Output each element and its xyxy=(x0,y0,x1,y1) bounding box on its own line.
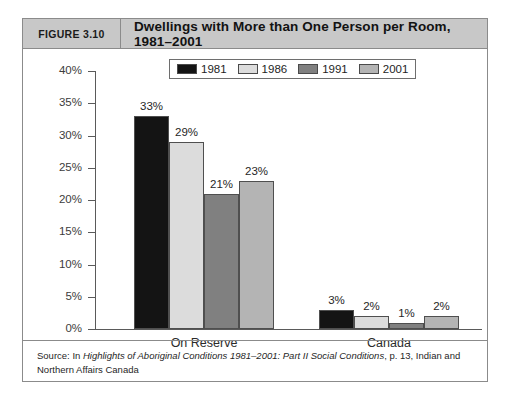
legend-item-2001[interactable]: 2001 xyxy=(359,63,409,75)
y-axis-tick-mark xyxy=(88,232,96,233)
source-prefix: Source: In xyxy=(37,350,83,361)
chart-legend: 1981198619912001 xyxy=(169,59,416,79)
y-axis-tick-label: 5% xyxy=(65,290,82,302)
legend-item-1986[interactable]: 1986 xyxy=(238,63,288,75)
y-axis-tick: 5% xyxy=(88,297,96,298)
legend-swatch-icon xyxy=(238,64,258,74)
y-axis-tick-label: 0% xyxy=(65,322,82,334)
y-axis-tick-mark xyxy=(88,71,96,72)
x-axis-line xyxy=(95,329,482,330)
source-note: Source: In Highlights of Aboriginal Cond… xyxy=(23,340,487,381)
y-axis-tick: 30% xyxy=(88,136,96,137)
bar-value-label: 33% xyxy=(132,100,172,112)
legend-item-1981[interactable]: 1981 xyxy=(177,63,227,75)
legend-label: 1991 xyxy=(322,63,348,75)
y-axis-tick: 20% xyxy=(88,200,96,201)
y-axis-tick-mark xyxy=(88,265,96,266)
y-axis-tick: 0% xyxy=(88,329,96,330)
legend-swatch-icon xyxy=(298,64,318,74)
bar-value-label: 2% xyxy=(352,300,392,312)
bar-1991-canada xyxy=(389,323,424,329)
source-publication-title: Highlights of Aboriginal Conditions 1981… xyxy=(83,350,384,361)
bar-1986-canada xyxy=(354,316,389,329)
legend-item-1991[interactable]: 1991 xyxy=(298,63,348,75)
y-axis-tick-mark xyxy=(88,297,96,298)
y-axis-tick-mark xyxy=(88,329,96,330)
y-axis-tick-label: 30% xyxy=(59,129,82,141)
y-axis-tick-mark xyxy=(88,168,96,169)
source-text: Source: In Highlights of Aboriginal Cond… xyxy=(37,349,473,377)
y-axis-tick-label: 35% xyxy=(59,96,82,108)
y-axis-tick-mark xyxy=(88,103,96,104)
y-axis-tick: 35% xyxy=(88,103,96,104)
bar-1981-canada xyxy=(319,310,354,329)
bar-1991-on-reserve xyxy=(204,194,239,329)
legend-swatch-icon xyxy=(177,64,197,74)
y-axis-tick-label: 25% xyxy=(59,161,82,173)
y-axis-tick-label: 10% xyxy=(59,258,82,270)
legend-swatch-icon xyxy=(359,64,379,74)
figure-number-label: FIGURE 3.10 xyxy=(23,19,121,48)
y-axis-tick-mark xyxy=(88,136,96,137)
bar-2001-on-reserve xyxy=(239,181,274,329)
bar-value-label: 29% xyxy=(167,126,207,138)
bar-value-label: 2% xyxy=(422,300,462,312)
bar-value-label: 1% xyxy=(387,307,427,319)
legend-label: 1981 xyxy=(201,63,227,75)
legend-label: 1986 xyxy=(262,63,288,75)
y-axis-tick: 15% xyxy=(88,232,96,233)
figure-title: Dwellings with More than One Person per … xyxy=(121,19,487,48)
y-axis-tick-label: 40% xyxy=(59,64,82,76)
y-axis-tick: 40% xyxy=(88,71,96,72)
y-axis-tick: 10% xyxy=(88,265,96,266)
bar-value-label: 21% xyxy=(202,178,242,190)
plot-region: 0%5%10%15%20%25%30%35%40% 19811986199120… xyxy=(23,50,487,340)
figure-header: FIGURE 3.10 Dwellings with More than One… xyxy=(23,19,487,49)
y-axis-tick-label: 15% xyxy=(59,225,82,237)
bar-value-label: 3% xyxy=(317,294,357,306)
y-axis-tick-label: 20% xyxy=(59,193,82,205)
chart-area: 0%5%10%15%20%25%30%35%40% 19811986199120… xyxy=(23,50,487,340)
y-axis-tick: 25% xyxy=(88,168,96,169)
y-axis-tick-mark xyxy=(88,200,96,201)
bar-1981-on-reserve xyxy=(134,116,169,329)
figure-container: FIGURE 3.10 Dwellings with More than One… xyxy=(22,18,488,382)
bar-2001-canada xyxy=(424,316,459,329)
bar-1986-on-reserve xyxy=(169,142,204,329)
legend-label: 2001 xyxy=(383,63,409,75)
bar-value-label: 23% xyxy=(237,165,277,177)
